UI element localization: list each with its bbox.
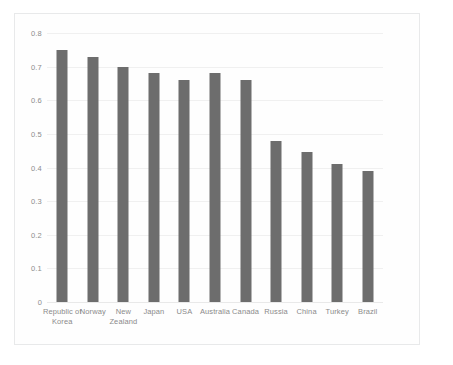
bar [332,164,343,302]
bar-group: Brazil [352,33,383,302]
y-axis-tick-label: 0.3 [31,197,42,206]
bar-group: China [291,33,322,302]
bar [209,73,220,302]
bar-group: Australia [200,33,231,302]
y-axis-tick-label: 0.4 [31,163,42,172]
y-axis-tick-label: 0.2 [31,230,42,239]
x-axis-tick-label: Brazil [347,307,389,317]
y-axis-tick-label: 0.1 [31,264,42,273]
bar [240,80,251,302]
y-axis-tick-label: 0.6 [31,96,42,105]
bar-chart-figure: 00.10.20.30.40.50.60.70.8 Republic of Ko… [0,0,453,365]
bar-group: Russia [261,33,292,302]
y-axis-tick-label: 0 [38,298,42,307]
plot-area: 00.10.20.30.40.50.60.70.8 Republic of Ko… [47,33,383,302]
bar [301,152,312,302]
chart-frame: 00.10.20.30.40.50.60.70.8 Republic of Ko… [14,13,420,345]
y-axis-tick-label: 0.7 [31,62,42,71]
bar [179,80,190,302]
bar [87,57,98,302]
gridline [47,302,383,303]
bar-group: USA [169,33,200,302]
bar-group: New Zealand [108,33,139,302]
y-axis-tick-label: 0.5 [31,129,42,138]
y-axis-tick-label: 0.8 [31,29,42,38]
bar-group: Norway [78,33,109,302]
bar [57,50,68,302]
bar [271,141,282,302]
bar [118,67,129,302]
bar-group: Canada [230,33,261,302]
bar-group: Turkey [322,33,353,302]
bar-group: Japan [139,33,170,302]
bar-group: Republic of Korea [47,33,78,302]
bar [148,73,159,302]
bar [362,171,373,302]
bar-series: Republic of KoreaNorwayNew ZealandJapanU… [47,33,383,302]
